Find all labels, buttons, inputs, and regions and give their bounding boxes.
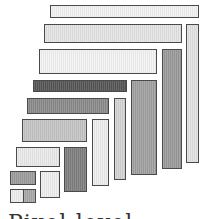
rect-v5: [114, 98, 126, 180]
rect-h4: [33, 80, 127, 92]
rect-v3: [162, 49, 182, 169]
rect-v6: [92, 119, 109, 186]
rect-h1: [50, 5, 199, 18]
rect-h7: [16, 147, 60, 167]
rect-h6: [22, 119, 87, 142]
rect-s9b: [23, 189, 36, 203]
rect-v2: [186, 24, 199, 163]
rect-v8: [40, 171, 60, 198]
rect-s9a: [10, 189, 24, 203]
rect-h2: [44, 24, 182, 43]
rect-h8: [10, 171, 36, 185]
caption-text: Pixel-level: [8, 210, 133, 219]
rect-h5: [27, 98, 109, 114]
rect-v7: [64, 147, 87, 192]
rect-h3: [39, 49, 157, 74]
rect-v4: [131, 80, 157, 175]
